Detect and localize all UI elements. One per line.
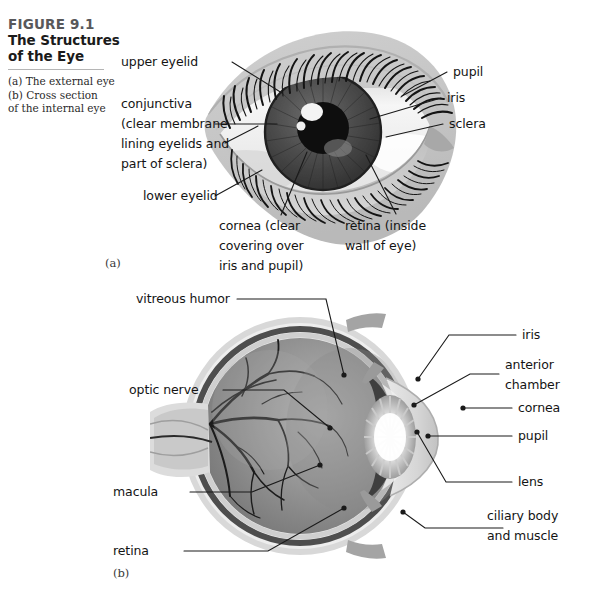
optic-nerve <box>150 402 212 477</box>
eye-cross-section-illustration <box>150 300 460 565</box>
panel-b-tag: (b) <box>113 566 129 580</box>
label-cornea-line-3: iris and pupil) <box>219 256 303 277</box>
panel-a-tag: (a) <box>105 256 121 270</box>
caption-part-b-line-1: (b) Cross section <box>8 89 120 103</box>
lens-group <box>364 395 416 479</box>
label-iris-panel-b: iris <box>522 325 540 346</box>
label-conjunctiva-line-4: part of sclera) <box>121 154 207 175</box>
label-macula: macula <box>113 482 158 503</box>
label-optic-nerve: optic nerve <box>129 380 199 401</box>
label-cornea-line-2: covering over <box>219 236 304 257</box>
label-sclera-panel-a: sclera <box>449 114 486 135</box>
label-retina-panel-a-line-2: wall of eye) <box>345 236 416 257</box>
label-ciliary-body-line-1: ciliary body <box>487 506 558 527</box>
figure-title-line-1: The Structures <box>8 32 120 48</box>
label-pupil-panel-b: pupil <box>518 426 548 447</box>
label-retina-panel-a-line-1: retina (inside <box>345 216 426 237</box>
label-upper-eyelid: upper eyelid <box>121 52 198 73</box>
label-cornea-line-1: cornea (clear <box>219 216 300 237</box>
label-cornea-panel-b: cornea <box>518 398 560 419</box>
muscle-stub-upper <box>346 313 386 332</box>
label-ciliary-body-line-2: and muscle <box>487 526 558 547</box>
figure-caption-block: FIGURE 9.1 The Structures of the Eye (a)… <box>8 16 120 116</box>
figure-title-line-2: of the Eye <box>8 48 120 64</box>
label-anterior-chamber-line-2: chamber <box>505 375 560 396</box>
label-conjunctiva-line-2: (clear membrane <box>121 114 228 135</box>
figure-9-1: FIGURE 9.1 The Structures of the Eye (a)… <box>0 0 591 602</box>
label-conjunctiva-line-1: conjunctiva <box>121 94 192 115</box>
label-lens: lens <box>518 472 543 493</box>
label-vitreous-humor: vitreous humor <box>136 289 230 310</box>
label-conjunctiva-line-3: lining eyelids and <box>121 134 229 155</box>
pupil-opening <box>374 413 406 461</box>
corneal-highlight-small <box>297 122 306 131</box>
caption-part-b-line-2: of the internal eye <box>8 102 120 116</box>
figure-number: FIGURE 9.1 <box>8 16 120 32</box>
label-iris-panel-a: iris <box>447 88 465 109</box>
label-retina-panel-b: retina <box>113 541 149 562</box>
caption-part-a: (a) The external eye <box>8 75 120 89</box>
label-lower-eyelid: lower eyelid <box>143 186 218 207</box>
label-pupil-panel-a: pupil <box>453 62 483 83</box>
caption-divider <box>8 69 104 70</box>
label-anterior-chamber-line-1: anterior <box>505 355 554 376</box>
muscle-stub-lower <box>346 540 386 559</box>
corneal-highlight-large <box>301 103 323 121</box>
